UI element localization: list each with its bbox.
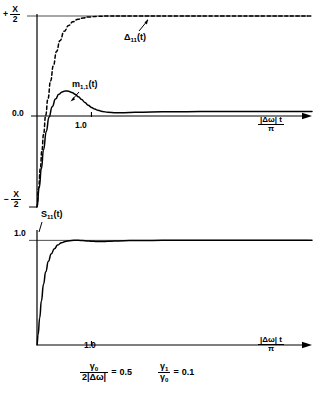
xtick-upper-1-0: 1.0 bbox=[75, 120, 87, 130]
ytick-upper-sign: + bbox=[3, 9, 8, 19]
leader-line-s bbox=[39, 222, 42, 232]
ytick-lower-den: 2 bbox=[11, 200, 21, 209]
xaxis-lower-fraction: |Δω| t π bbox=[258, 336, 284, 353]
figure-container: + X 2 0.0 − X 2 1.0 Δ11(t) m1,1(t) |Δω| … bbox=[0, 0, 320, 397]
ytick-upper-plus-x-over-2: + X 2 bbox=[3, 5, 20, 23]
m-argument: (t) bbox=[89, 79, 98, 89]
eq1-value: 0.5 bbox=[119, 367, 132, 377]
curve-mt bbox=[37, 91, 312, 207]
eq2-fraction: γ1 γ0 bbox=[158, 362, 170, 383]
xaxis-label-lower: |Δω| t π bbox=[258, 336, 284, 353]
eq1-fraction: γ0 2|Δω| bbox=[80, 362, 108, 382]
curve-St bbox=[37, 240, 312, 345]
caption-equation-2: γ1 γ0 = 0.1 bbox=[158, 362, 194, 383]
curve-label-delta11: Δ11(t) bbox=[124, 32, 146, 43]
ytick-upper-den: 2 bbox=[10, 15, 20, 24]
eq2-equals: = bbox=[173, 367, 178, 377]
eq2-denominator: γ0 bbox=[158, 373, 170, 383]
s-argument: (t) bbox=[53, 209, 62, 219]
ytick-upper-fraction: X 2 bbox=[10, 5, 20, 23]
x-axis-arrow-upper bbox=[302, 113, 312, 119]
xtick-lower-1-0: 1.0 bbox=[84, 340, 96, 350]
m-subscript: 1,1 bbox=[80, 83, 89, 90]
curve-label-s11: S11(t) bbox=[41, 209, 62, 220]
eq2-gamma-den-sub: 0 bbox=[165, 376, 168, 383]
ytick-lower-1-0: 1.0 bbox=[14, 228, 26, 238]
ytick-upper-zero: 0.0 bbox=[12, 108, 24, 118]
xaxis-label-upper: |Δω| t π bbox=[258, 116, 284, 133]
eq1-denominator: 2|Δω| bbox=[80, 373, 108, 382]
m-symbol: m bbox=[72, 79, 80, 89]
eq1-gamma-sub: 0 bbox=[95, 365, 98, 372]
xaxis-upper-den: π bbox=[258, 125, 284, 133]
eq2-value: 0.1 bbox=[182, 367, 195, 377]
curve-label-m11: m1,1(t) bbox=[72, 79, 98, 90]
ytick-lower-fraction: X 2 bbox=[11, 190, 21, 208]
eq2-gamma-sub: 1 bbox=[165, 365, 168, 372]
xaxis-lower-den: π bbox=[258, 345, 284, 353]
caption-equation-1: γ0 2|Δω| = 0.5 bbox=[80, 362, 132, 382]
eq1-equals: = bbox=[111, 367, 116, 377]
x-axis-arrow-lower bbox=[302, 342, 312, 348]
ytick-lower-sign: − bbox=[4, 194, 9, 204]
delta-argument: (t) bbox=[137, 32, 146, 42]
ytick-upper-minus-x-over-2: − X 2 bbox=[4, 190, 21, 208]
xaxis-upper-fraction: |Δω| t π bbox=[258, 116, 284, 133]
